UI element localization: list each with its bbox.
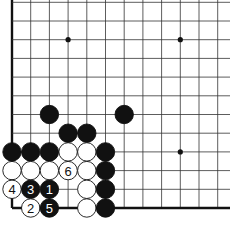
white-stone-move-6: 6	[59, 161, 77, 179]
stone-icon	[40, 105, 58, 123]
go-board: 643125	[0, 0, 230, 225]
stone-icon	[96, 199, 114, 217]
stone-icon	[3, 161, 21, 179]
white-stone	[78, 199, 96, 217]
stone-icon	[3, 143, 21, 161]
stone-icon	[22, 161, 40, 179]
stone-icon	[78, 180, 96, 198]
move-number: 1	[46, 182, 53, 197]
white-stone	[59, 143, 77, 161]
black-stone	[96, 199, 114, 217]
stone-icon	[115, 105, 133, 123]
black-stone	[78, 124, 96, 142]
white-stone	[78, 161, 96, 179]
black-stone	[115, 105, 133, 123]
black-stone	[22, 143, 40, 161]
white-stone	[3, 161, 21, 179]
star-point-icon	[178, 149, 183, 154]
stone-icon	[22, 143, 40, 161]
black-stone-move-5: 5	[40, 199, 58, 217]
move-number: 2	[27, 201, 34, 216]
white-stone	[40, 161, 58, 179]
stone-icon	[96, 161, 114, 179]
stone-icon	[78, 161, 96, 179]
black-stone-move-1: 1	[40, 180, 58, 198]
stone-icon	[59, 143, 77, 161]
go-board-diagram: 643125	[0, 0, 230, 225]
black-stone	[96, 180, 114, 198]
black-stone	[3, 143, 21, 161]
move-number: 4	[8, 182, 15, 197]
star-point-icon	[178, 37, 183, 42]
black-stone	[96, 143, 114, 161]
stone-icon	[96, 180, 114, 198]
black-stone	[40, 105, 58, 123]
stone-icon	[78, 143, 96, 161]
stone-icon	[59, 124, 77, 142]
star-point-icon	[66, 37, 71, 42]
white-stone	[22, 161, 40, 179]
black-stone-move-3: 3	[22, 180, 40, 198]
white-stone	[78, 180, 96, 198]
stone-icon	[40, 161, 58, 179]
white-stone-move-4: 4	[3, 180, 21, 198]
black-stone	[96, 161, 114, 179]
stone-icon	[96, 143, 114, 161]
move-number: 6	[64, 164, 71, 179]
white-stone-move-2: 2	[22, 199, 40, 217]
stone-icon	[40, 143, 58, 161]
move-number: 3	[27, 182, 34, 197]
move-number: 5	[46, 201, 53, 216]
black-stone	[59, 124, 77, 142]
black-stone	[40, 143, 58, 161]
stone-icon	[78, 199, 96, 217]
white-stone	[78, 143, 96, 161]
stone-icon	[78, 124, 96, 142]
